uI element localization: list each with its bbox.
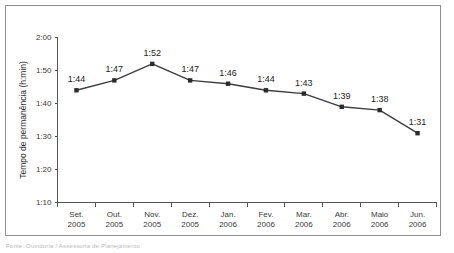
data-point-label: 1:39 bbox=[333, 91, 351, 101]
x-axis-tick-label-year: 2006 bbox=[371, 220, 389, 229]
chart-source-caption: Fonte: Ouvidoria / Assessoria de Planeja… bbox=[6, 243, 140, 253]
data-point-marker bbox=[226, 82, 230, 86]
y-axis-tick-label: 1:10 bbox=[36, 198, 52, 207]
x-axis-tick-label-month: Jun. bbox=[410, 210, 425, 219]
y-axis-title: Tempo de permanência (h:min) bbox=[18, 61, 28, 179]
x-axis-tick-label-month: Jan. bbox=[220, 210, 235, 219]
y-axis-tick-label: 1:40 bbox=[36, 99, 52, 108]
data-series-line bbox=[76, 64, 417, 133]
data-point-marker bbox=[415, 131, 419, 135]
y-axis-tick-label: 1:50 bbox=[36, 66, 52, 75]
data-point-marker bbox=[340, 105, 344, 109]
x-axis-tick-label-year: 2005 bbox=[105, 220, 123, 229]
data-point-label: 1:44 bbox=[68, 74, 86, 84]
x-axis-tick-label-year: 2006 bbox=[219, 220, 237, 229]
data-point-label: 1:43 bbox=[295, 78, 313, 88]
x-axis-tick-label-month: Set. bbox=[69, 210, 83, 219]
data-point-label: 1:52 bbox=[143, 48, 161, 58]
y-axis-tick-label: 2:00 bbox=[36, 33, 52, 42]
data-point-label: 1:47 bbox=[106, 64, 124, 74]
y-axis-tick-label: 1:20 bbox=[36, 165, 52, 174]
x-axis-tick-label-month: Maio bbox=[371, 210, 389, 219]
data-point-label: 1:44 bbox=[257, 74, 275, 84]
x-axis-tick-label-month: Abr. bbox=[335, 210, 349, 219]
x-axis-tick-label-month: Out. bbox=[107, 210, 122, 219]
data-point-marker bbox=[150, 62, 154, 66]
data-point-marker bbox=[377, 108, 381, 112]
data-point-label: 1:46 bbox=[219, 68, 237, 78]
x-axis-tick-label-month: Mar. bbox=[296, 210, 312, 219]
x-axis-tick-label-year: 2005 bbox=[181, 220, 199, 229]
chart-figure: 1:101:201:301:401:502:00Set.2005Out.2005… bbox=[0, 0, 454, 253]
data-point-marker bbox=[188, 78, 192, 82]
x-axis-tick-label-month: Nov. bbox=[144, 210, 160, 219]
x-axis-tick-label-month: Dez. bbox=[182, 210, 198, 219]
x-axis-tick-label-year: 2006 bbox=[409, 220, 427, 229]
x-axis-tick-label-year: 2005 bbox=[143, 220, 161, 229]
data-point-marker bbox=[264, 88, 268, 92]
x-axis-tick-label-year: 2005 bbox=[68, 220, 86, 229]
data-point-marker bbox=[302, 91, 306, 95]
line-chart-plot: 1:101:201:301:401:502:00Set.2005Out.2005… bbox=[0, 0, 454, 253]
data-point-marker bbox=[74, 88, 78, 92]
x-axis-tick-label-year: 2006 bbox=[257, 220, 275, 229]
data-point-label: 1:31 bbox=[409, 117, 427, 127]
x-axis-tick-label-month: Fev. bbox=[258, 210, 273, 219]
x-axis-tick-label-year: 2006 bbox=[333, 220, 351, 229]
x-axis-tick-label-year: 2006 bbox=[295, 220, 313, 229]
data-point-label: 1:38 bbox=[371, 94, 389, 104]
data-point-marker bbox=[112, 78, 116, 82]
y-axis-tick-label: 1:30 bbox=[36, 132, 52, 141]
data-point-label: 1:47 bbox=[181, 64, 199, 74]
